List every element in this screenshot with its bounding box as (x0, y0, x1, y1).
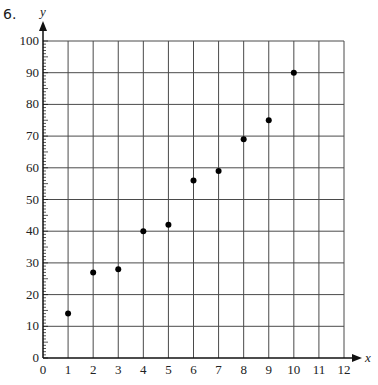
x-tick-labels: 0123456789101112 (40, 362, 351, 377)
x-tick-label: 4 (140, 362, 147, 377)
x-tick-label: 10 (287, 362, 300, 377)
x-tick-label: 0 (40, 362, 47, 377)
data-point (165, 222, 171, 228)
y-tick-label: 100 (20, 33, 40, 48)
x-tick-label: 12 (338, 362, 351, 377)
x-tick-label: 5 (165, 362, 172, 377)
x-tick-label: 1 (65, 362, 72, 377)
y-axis-label: y (38, 4, 46, 19)
data-point (291, 70, 297, 76)
data-point (90, 269, 96, 275)
data-point (140, 228, 146, 234)
y-tick-label: 70 (26, 128, 39, 143)
y-tick-label: 30 (26, 255, 39, 270)
y-tick-label: 60 (26, 160, 39, 175)
data-point (241, 136, 247, 142)
y-tick-label: 20 (26, 287, 39, 302)
grid-lines (43, 41, 344, 358)
y-tick-label: 0 (33, 350, 40, 365)
axes: x y (38, 4, 371, 365)
x-axis-label: x (364, 350, 371, 365)
x-tick-label: 7 (215, 362, 222, 377)
scatter-plot: x y 0123456789101112 0102030405060708090… (0, 0, 378, 385)
data-point (115, 266, 121, 272)
data-point (216, 168, 222, 174)
data-point (65, 311, 71, 317)
y-tick-label: 80 (26, 96, 39, 111)
x-tick-label: 3 (115, 362, 122, 377)
y-tick-label: 40 (26, 223, 39, 238)
data-point (191, 177, 197, 183)
y-tick-label: 50 (26, 192, 39, 207)
x-tick-label: 6 (190, 362, 197, 377)
y-tick-labels: 0102030405060708090100 (20, 33, 40, 365)
y-axis-arrow-icon (39, 21, 47, 31)
x-tick-label: 11 (313, 362, 326, 377)
x-tick-label: 8 (240, 362, 247, 377)
y-tick-label: 90 (26, 65, 39, 80)
x-tick-label: 2 (90, 362, 97, 377)
data-points (65, 70, 297, 317)
data-point (266, 117, 272, 123)
x-axis-arrow-icon (352, 354, 362, 362)
x-tick-label: 9 (266, 362, 273, 377)
y-tick-label: 10 (26, 318, 39, 333)
